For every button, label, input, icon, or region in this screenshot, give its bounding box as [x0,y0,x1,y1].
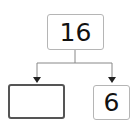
whole-box: 16 [47,14,104,50]
whole-value: 16 [60,18,92,47]
arrow-right-icon [108,77,116,83]
part-box-right: 6 [93,85,130,120]
part-box-empty[interactable] [8,84,65,119]
arrow-left-icon [33,77,41,83]
part-value-right: 6 [104,88,120,117]
